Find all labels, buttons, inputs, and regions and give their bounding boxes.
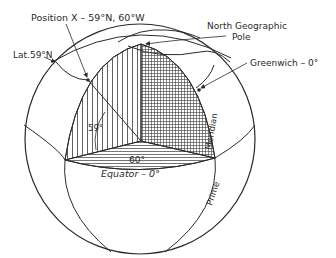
prime-label: Prime [204,180,221,206]
globe-diagram: Position X – 59°N, 60°W Lat.59°N North G… [0,0,336,258]
greenwich-point [197,88,201,92]
equator-back [24,125,65,160]
angle-59-label: 59° [88,123,103,133]
latitude-label: Lat.59°N [13,50,53,60]
latitude-sector-hatched [65,44,141,160]
greenwich-label: Greenwich – 0° [250,58,318,68]
leader-position [66,24,87,77]
angle-60-label: 60° [129,155,145,165]
position-label: Position X – 59°N, 60°W [31,12,145,23]
equator-back-right [215,125,255,158]
north-pole-label-1: North Geographic [207,21,287,31]
equator-label: Equator – 0° [101,168,160,179]
north-pole-label-2: Pole [232,32,251,42]
position-x-point [86,78,90,82]
